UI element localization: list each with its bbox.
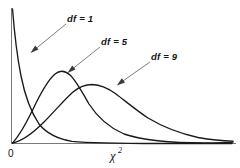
leader-line-df-9 [120, 62, 150, 83]
x-axis-title: χ [109, 149, 116, 163]
leader-line-df-5 [71, 47, 101, 71]
curve-df-9 [13, 85, 234, 144]
axes-group [12, 8, 237, 144]
annotation-leaders-group [31, 24, 151, 86]
annotation-labels-group: df = 1 df = 5 df = 9 [67, 13, 178, 62]
chart-canvas: df = 1 df = 5 df = 9 0 χ 2 [0, 0, 240, 168]
curve-df-1 [13, 9, 233, 144]
arrowhead-df-1 [31, 46, 39, 54]
leader-line-df-1 [34, 24, 67, 51]
annotation-label-df-5: df = 5 [101, 36, 128, 47]
x-axis-origin-tick-label: 0 [8, 148, 14, 159]
annotation-label-df-1: df = 1 [67, 13, 93, 24]
axis-labels-group: 0 χ 2 [8, 146, 122, 163]
x-axis-title-superscript: 2 [118, 146, 122, 155]
chi-square-distribution-figure: df = 1 df = 5 df = 9 0 χ 2 [0, 0, 240, 168]
arrowhead-df-5 [68, 66, 76, 74]
annotation-label-df-9: df = 9 [151, 51, 178, 62]
curves-group [13, 9, 234, 144]
arrowhead-df-9 [117, 78, 125, 85]
